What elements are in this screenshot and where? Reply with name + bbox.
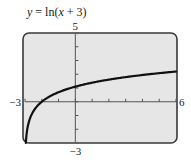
chart-plot: 5 −3 −3 6 <box>0 0 191 165</box>
y-min-label: −3 <box>69 145 81 157</box>
y-max-label: 5 <box>73 20 79 32</box>
plot-frame <box>23 33 177 143</box>
x-min-label: −3 <box>9 96 21 108</box>
x-max-label: 6 <box>179 96 185 108</box>
